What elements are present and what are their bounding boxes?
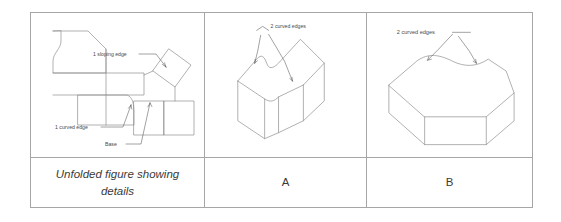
leader-bracket-a xyxy=(257,26,269,30)
solid-b-drawing: 2 curved edges xyxy=(367,13,532,157)
caption-unfolded: Unfolded figure showing details xyxy=(31,158,204,207)
solid-b-right-face xyxy=(486,93,514,145)
panel-a-figure: 2 curved edges xyxy=(204,13,366,157)
panel-b-figure: 2 curved edges xyxy=(366,13,532,157)
solid-a-front-top-edge xyxy=(238,81,304,101)
solid-a-drawing: 2 curved edges xyxy=(205,13,366,157)
solid-a-right-face xyxy=(279,85,304,133)
net-base-right xyxy=(164,101,194,135)
label-curved-edge: 1 curved edge xyxy=(55,124,88,130)
leader-curved-edge-b2 xyxy=(458,36,476,63)
caption-a: A xyxy=(204,158,366,207)
net-diamond-connector xyxy=(144,71,153,75)
arrowhead-base xyxy=(148,103,152,107)
label-curved-edges-a: 2 curved edges xyxy=(271,23,307,29)
caption-b: B xyxy=(366,158,532,207)
panel-unfolded-figure: 1 sloping edge 1 curved edge Base xyxy=(31,13,204,157)
leader-curved-edge xyxy=(101,105,131,127)
leader-sloping-edge xyxy=(139,54,166,67)
solid-a-top-outline xyxy=(238,39,324,85)
solid-b-front-face xyxy=(425,117,487,145)
net-diamond-flap xyxy=(153,49,191,87)
net-base-left xyxy=(134,101,164,135)
leader-curved-edge-a1 xyxy=(255,35,261,63)
label-curved-edges-b: 2 curved edges xyxy=(397,29,435,35)
solid-b-left-face xyxy=(389,85,425,145)
table-row-captions: Unfolded figure showing details A B xyxy=(31,157,532,207)
label-sloping-edge: 1 sloping edge xyxy=(93,51,127,57)
solid-a-front-face xyxy=(265,97,279,139)
label-base: Base xyxy=(105,141,117,147)
leader-curved-edge-a2 xyxy=(269,34,293,81)
table-row-figures: 1 sloping edge 1 curved edge Base xyxy=(31,13,532,157)
solid-a-right-silhouette xyxy=(303,63,324,121)
figure-comparison-table: 1 sloping edge 1 curved edge Base xyxy=(30,12,533,208)
unfolded-net-drawing: 1 sloping edge 1 curved edge Base xyxy=(31,13,204,157)
solid-b-top-face xyxy=(389,55,514,116)
net-strip-middle xyxy=(53,73,144,95)
